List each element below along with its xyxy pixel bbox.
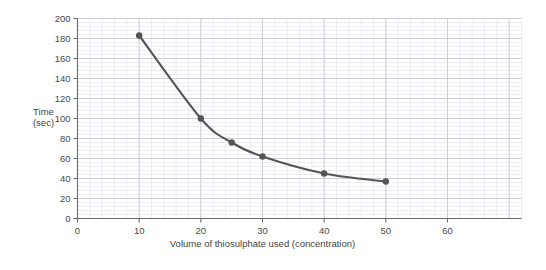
y-axis-title-line1: Time [33,106,54,117]
y-tick-label: 20 [60,193,71,204]
x-tick-label: 60 [442,225,453,236]
data-point-marker [321,170,327,176]
y-tick-label: 200 [55,13,71,24]
data-point-marker [383,178,389,184]
x-tick-label: 50 [381,225,392,236]
y-tick-label: 40 [60,173,71,184]
x-axis-title: Volume of thiosulphate used (concentrati… [170,238,355,249]
y-tick-label: 100 [55,113,71,124]
x-tick-label: 10 [134,225,145,236]
data-point-marker [198,115,204,121]
x-axis-ticks: 0102030405060 [75,219,453,236]
x-tick-label: 30 [257,225,268,236]
y-tick-label: 120 [55,93,71,104]
y-tick-label: 0 [65,213,70,224]
y-tick-label: 160 [55,53,71,64]
y-tick-label: 140 [55,73,71,84]
y-tick-label: 60 [60,153,71,164]
y-axis-title-line2: (sec) [33,117,54,128]
y-axis-ticks: 020406080100120140160180200 [55,13,78,224]
data-point-marker [228,139,234,145]
x-tick-label: 20 [196,225,207,236]
y-tick-label: 180 [55,33,71,44]
data-point-marker [259,153,265,159]
x-tick-label: 40 [319,225,330,236]
data-point-marker [136,32,142,38]
chart-figure: 0204060801001201401601802000102030405060… [0,0,546,270]
x-tick-label: 0 [75,225,80,236]
y-tick-label: 80 [60,133,71,144]
